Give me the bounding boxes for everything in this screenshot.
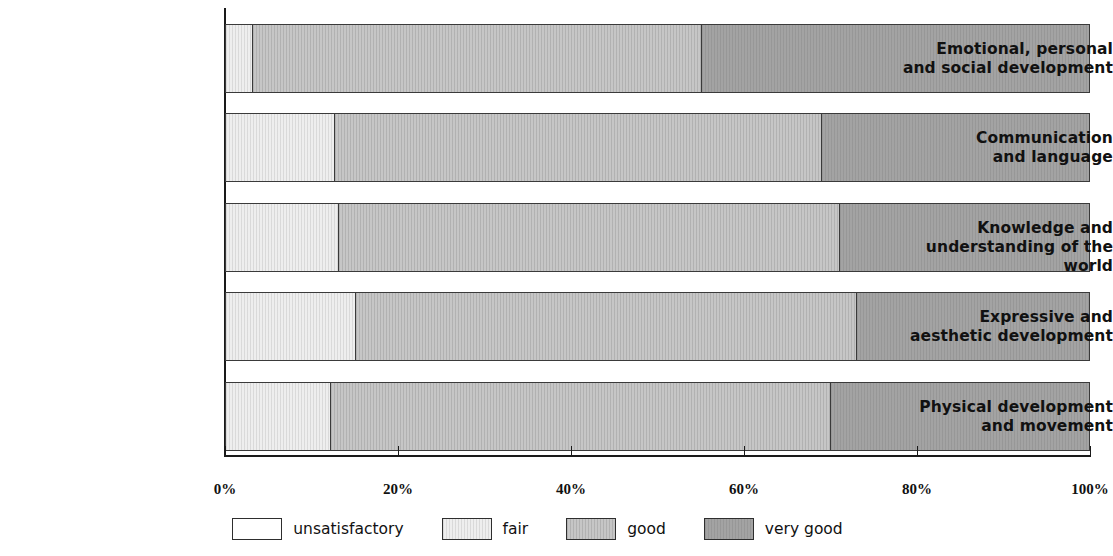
x-axis-tick-label: 20% [383,481,413,498]
bar-segment-fair[interactable] [226,114,334,181]
category-label: Expressive andaesthetic development [898,308,1113,346]
legend-label: very good [765,520,843,538]
stacked-bar-chart: Emotional, personaland social developmen… [0,0,1113,556]
bar-segment-good[interactable] [355,293,856,360]
x-axis-tick [1090,446,1091,456]
bar-segment-good[interactable] [252,25,701,92]
category-label: Emotional, personaland social developmen… [898,40,1113,78]
category-label: Physical developmentand movement [898,398,1113,436]
bar-segment-fair[interactable] [226,204,338,271]
category-label-line: Knowledge and [898,219,1113,238]
x-axis-tick [398,446,399,456]
category-label-line: Expressive and [898,308,1113,327]
bar-segment-fair[interactable] [226,25,252,92]
category-label: Knowledge andunderstanding of the world [898,219,1113,276]
category-label-line: understanding of the world [898,238,1113,276]
legend-item-fair[interactable]: fair [442,518,567,540]
bar-segment-good[interactable] [334,114,822,181]
legend-label: fair [503,520,529,538]
legend-swatch-fair [442,518,492,540]
x-axis-tick [917,446,918,456]
category-label-line: Emotional, personal [898,40,1113,59]
category-label-line: Physical development [898,398,1113,417]
category-label-line: Communication [898,129,1113,148]
x-axis-tick [744,446,745,456]
category-label: Communicationand language [898,129,1113,167]
x-axis-tick-label: 80% [902,481,932,498]
bar-segment-good[interactable] [330,383,831,450]
category-label-line: aesthetic development [898,327,1113,346]
x-axis-tick-label: 100% [1071,481,1109,498]
category-label-line: and language [898,148,1113,167]
bar-segment-good[interactable] [338,204,839,271]
bar-segment-fair[interactable] [226,383,330,450]
category-label-line: and movement [898,417,1113,436]
x-axis-tick-label: 40% [556,481,586,498]
legend-swatch-good [566,518,616,540]
x-axis-tick-label: 0% [214,481,237,498]
chart-legend: unsatisfactoryfairgoodvery good [0,516,1113,542]
bar-segment-fair[interactable] [226,293,355,360]
category-label-line: and social development [898,59,1113,78]
legend-swatch-unsatisfactory [232,518,282,540]
x-axis-line [224,455,1091,457]
legend-label: good [627,520,666,538]
x-axis-tick [571,446,572,456]
legend-item-very-good[interactable]: very good [704,518,881,540]
x-axis-tick-label: 60% [729,481,759,498]
x-axis-tick [225,446,226,456]
legend-swatch-verygood [704,518,754,540]
legend-item-good[interactable]: good [566,518,704,540]
legend-label: unsatisfactory [293,520,403,538]
legend-item-unsatisfactory[interactable]: unsatisfactory [232,518,441,540]
